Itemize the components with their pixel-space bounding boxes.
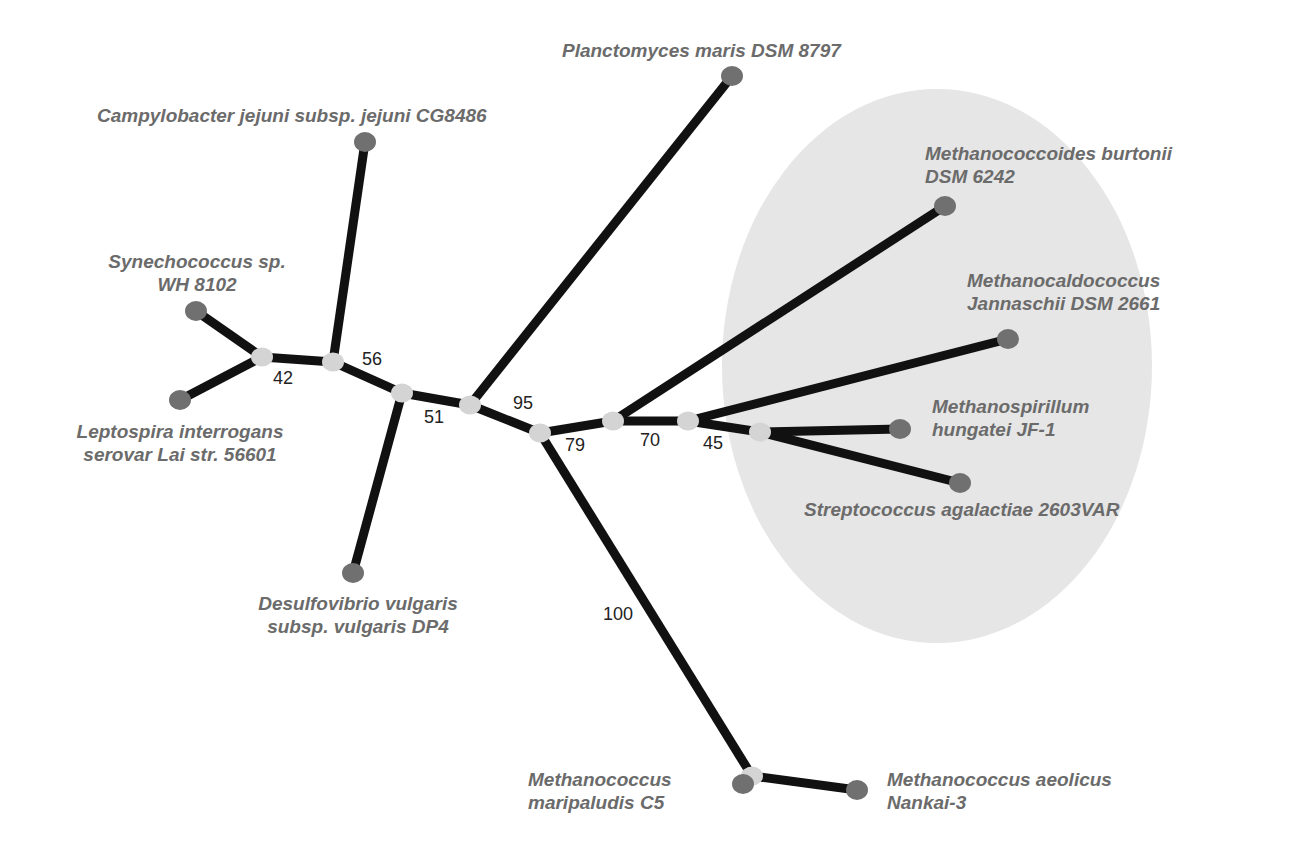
taxon-strain: Nankai-3 — [887, 791, 1112, 814]
leaf-node-methanocaldococcus — [997, 329, 1019, 349]
taxon-strain: WH 8102 — [62, 273, 332, 296]
support-value-79: 79 — [565, 435, 585, 456]
taxon-name: Leptospira interrogans — [40, 420, 320, 443]
branch-n79-n70 — [540, 421, 613, 433]
leaf-node-streptococcus — [949, 473, 971, 493]
taxon-name: Methanocaldococcus — [967, 269, 1160, 292]
taxon-name: Methanococcus aeolicus — [887, 768, 1112, 791]
taxon-name: Methanococcoides burtonii — [925, 142, 1172, 165]
leaf-node-methanococcoides — [934, 196, 956, 216]
leaf-node-campylobacter — [354, 132, 376, 152]
support-value-70: 70 — [640, 430, 660, 451]
internal-node-n79 — [529, 424, 551, 443]
branch-n100-aeolicus — [752, 776, 857, 790]
leaf-node-aeolicus — [846, 780, 868, 800]
branch-desulfovibrio-n51 — [353, 393, 402, 573]
taxon-label-methanospirillum: Methanospirillum hungatei JF-1 — [932, 395, 1089, 441]
internal-node-n42 — [251, 348, 273, 367]
taxon-name: Desulfovibrio vulgaris — [218, 592, 498, 615]
internal-node-nArc — [749, 423, 771, 442]
taxon-name: Synechococcus sp. — [62, 250, 332, 273]
taxon-label-synechococcus: Synechococcus sp. WH 8102 — [62, 250, 332, 296]
support-value-45: 45 — [703, 433, 723, 454]
taxon-name: Planctomyces maris DSM 8797 — [562, 39, 841, 62]
support-value-42: 42 — [273, 368, 293, 389]
taxon-name: Methanococcus — [528, 768, 672, 791]
taxon-strain: hungatei JF-1 — [932, 418, 1089, 441]
support-value-51: 51 — [424, 407, 444, 428]
taxon-label-streptococcus: Streptococcus agalactiae 2603VAR — [804, 498, 1119, 521]
internal-node-n45 — [677, 412, 699, 431]
taxon-strain: Jannaschii DSM 2661 — [967, 292, 1160, 315]
taxon-strain: subsp. vulgaris DP4 — [218, 615, 498, 638]
taxon-label-maripaludis: Methanococcus maripaludis C5 — [528, 768, 672, 814]
taxon-label-planctomyces: Planctomyces maris DSM 8797 — [562, 39, 841, 62]
taxon-strain: DSM 6242 — [925, 165, 1172, 188]
taxon-name: Methanospirillum — [932, 395, 1089, 418]
branch-leptospira-n42 — [180, 357, 262, 400]
leaf-node-planctomyces — [721, 66, 743, 86]
taxon-label-desulfovibrio: Desulfovibrio vulgaris subsp. vulgaris D… — [218, 592, 498, 638]
internal-node-n70 — [602, 412, 624, 431]
taxon-label-methanocaldococcus: Methanocaldococcus Jannaschii DSM 2661 — [967, 269, 1160, 315]
support-value-95: 95 — [513, 393, 533, 414]
support-value-56: 56 — [362, 349, 382, 370]
branch-campylobacter-n56 — [333, 142, 365, 362]
taxon-label-methanococcoides: Methanococcoides burtonii DSM 6242 — [925, 142, 1172, 188]
taxon-strain: serovar Lai str. 56601 — [40, 443, 320, 466]
support-value-100: 100 — [603, 604, 633, 625]
taxon-label-leptospira: Leptospira interrogans serovar Lai str. … — [40, 420, 320, 466]
internal-node-n95 — [459, 396, 481, 415]
taxon-name: Streptococcus agalactiae 2603VAR — [804, 498, 1119, 521]
leaf-node-maripaludis — [732, 774, 754, 794]
internal-node-n56 — [322, 353, 344, 372]
leaf-node-methanospirillum — [889, 419, 911, 439]
branch-nArc-methanospirillum — [760, 429, 900, 432]
taxon-strain: maripaludis C5 — [528, 791, 672, 814]
internal-node-n51 — [391, 384, 413, 403]
taxon-label-campylobacter: Campylobacter jejuni subsp. jejuni CG848… — [97, 104, 487, 127]
leaf-node-desulfovibrio — [342, 563, 364, 583]
leaf-node-leptospira — [169, 390, 191, 410]
taxon-label-aeolicus: Methanococcus aeolicus Nankai-3 — [887, 768, 1112, 814]
branch-n79-n100 — [540, 433, 752, 776]
leaf-node-synechococcus — [185, 301, 207, 321]
taxon-name: Campylobacter jejuni subsp. jejuni CG848… — [97, 104, 487, 127]
branch-planctomyces-n95 — [470, 76, 732, 405]
branch-synechococcus-n42 — [196, 311, 262, 357]
